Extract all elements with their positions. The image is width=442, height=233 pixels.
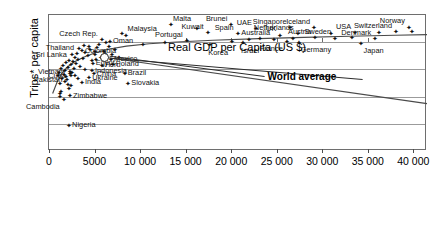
world-average-label: World average xyxy=(268,71,337,82)
x-tick-mark xyxy=(186,149,187,153)
x-tick-label: 20 000 xyxy=(215,155,247,167)
x-tick-label: 40 000 xyxy=(397,155,429,167)
annotation-leader-lines xyxy=(49,15,427,151)
x-tick-mark xyxy=(322,149,323,153)
x-tick-mark xyxy=(140,149,141,153)
x-tick-label: 15 000 xyxy=(170,155,202,167)
chart-figure: Trips* per capita 1010.10.010.0010.0001 … xyxy=(0,0,442,233)
x-tick-mark xyxy=(95,149,96,153)
x-axis: 0500010 00015 00020 00025 00030 00035 00… xyxy=(49,149,425,150)
x-tick-mark xyxy=(231,149,232,153)
x-axis-label: Real GDP per Capita (US $) xyxy=(49,41,425,53)
x-tick-label: 25 000 xyxy=(261,155,293,167)
x-tick-label: 10 000 xyxy=(124,155,156,167)
plot-area: MaltaBruneiUAESingaporeIcelandNorwaySwit… xyxy=(48,14,426,150)
x-tick-label: 0 xyxy=(46,155,52,167)
x-tick-label: 30 000 xyxy=(306,155,338,167)
x-tick-mark xyxy=(413,149,414,153)
x-tick-mark xyxy=(277,149,278,153)
x-tick-label: 35 000 xyxy=(352,155,384,167)
x-tick-mark xyxy=(368,149,369,153)
leader-line-upper xyxy=(110,56,265,76)
x-tick-mark xyxy=(49,149,50,153)
x-tick-label: 5000 xyxy=(83,155,106,167)
